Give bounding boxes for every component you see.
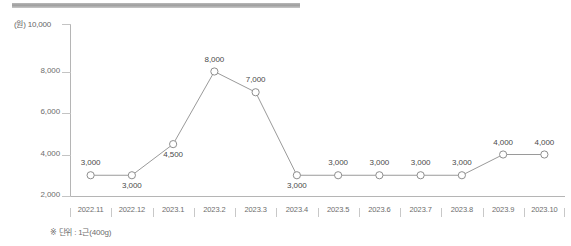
x-axis-tick-label: 2023.1 xyxy=(153,205,194,214)
x-axis-tick-label: 2023.3 xyxy=(235,205,276,214)
data-point-marker[interactable] xyxy=(87,172,94,179)
chart-page: (원) 10,000 2,0004,0006,0008,000 3,0003,0… xyxy=(0,0,571,246)
x-axis-tick-label: 2022.12 xyxy=(111,205,152,214)
data-point-marker[interactable] xyxy=(541,151,548,158)
x-axis-tick-labels: 2022.112022.122023.12023.22023.32023.420… xyxy=(70,201,565,217)
data-point-value-label: 4,000 xyxy=(493,138,513,147)
data-point-value-label: 3,000 xyxy=(452,158,472,167)
y-axis-tick-label: 4,000 xyxy=(24,149,60,158)
data-point-marker[interactable] xyxy=(500,151,507,158)
x-axis-tick-label: 2023.4 xyxy=(276,205,317,214)
data-point-value-label: 7,000 xyxy=(246,75,266,84)
x-axis-tick-label: 2023.10 xyxy=(524,205,565,214)
data-point-marker[interactable] xyxy=(458,172,465,179)
data-point-marker[interactable] xyxy=(128,172,135,179)
y-axis-tick-label: 2,000 xyxy=(24,190,60,199)
y-axis-tick-label: 8,000 xyxy=(24,66,60,75)
data-point-value-label: 4,500 xyxy=(163,150,183,159)
data-point-value-label: 3,000 xyxy=(287,181,307,190)
data-point-value-label: 8,000 xyxy=(205,55,225,64)
x-axis-tick-label: 2023.5 xyxy=(318,205,359,214)
series-line xyxy=(91,72,545,176)
data-point-value-label: 4,000 xyxy=(535,138,555,147)
x-axis-tick-label: 2023.6 xyxy=(359,205,400,214)
data-series-layer xyxy=(87,68,548,179)
x-axis-tick-label: 2023.9 xyxy=(483,205,524,214)
data-point-value-label: 3,000 xyxy=(370,158,390,167)
x-axis-tick-label: 2023.7 xyxy=(400,205,441,214)
data-point-value-label: 3,000 xyxy=(411,158,431,167)
data-point-marker[interactable] xyxy=(376,172,383,179)
data-point-marker[interactable] xyxy=(211,68,218,75)
data-point-value-label: 3,000 xyxy=(81,158,101,167)
data-point-marker[interactable] xyxy=(252,89,259,96)
data-point-marker[interactable] xyxy=(417,172,424,179)
data-point-marker[interactable] xyxy=(170,141,177,148)
x-axis-tick-label: 2022.11 xyxy=(70,205,111,214)
data-point-value-label: 3,000 xyxy=(328,158,348,167)
data-point-marker[interactable] xyxy=(335,172,342,179)
x-axis-tick-label: 2023.2 xyxy=(194,205,235,214)
chart-footnote: ※ 단위 : 1근(400g) xyxy=(50,226,111,237)
data-point-value-label: 3,000 xyxy=(122,181,142,190)
data-point-marker[interactable] xyxy=(293,172,300,179)
x-axis-tick-label: 2023.8 xyxy=(441,205,482,214)
y-axis-tick-label: 6,000 xyxy=(24,107,60,116)
